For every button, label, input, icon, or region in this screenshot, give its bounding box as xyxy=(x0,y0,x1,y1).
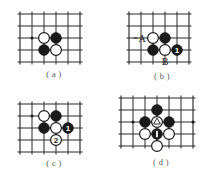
panel-c-caption: ( c ) xyxy=(14,158,94,168)
stone-number-1: 1 xyxy=(175,46,180,55)
stone-white xyxy=(140,129,151,140)
stone-black xyxy=(160,33,171,44)
go-diagram-figure: ( a ) AB1 ( b ) 12 ( c ) ( d ) xyxy=(0,0,212,175)
stone-black xyxy=(39,123,50,134)
stone-black xyxy=(152,105,163,116)
panel-d: ( d ) xyxy=(115,93,207,173)
star-point xyxy=(31,115,34,118)
stone-black xyxy=(148,45,159,56)
panel-b-caption: ( b ) xyxy=(119,71,205,81)
go-board-d xyxy=(115,93,207,155)
stone-black xyxy=(140,117,151,128)
go-board-b: AB1 xyxy=(119,9,205,69)
stone-white xyxy=(148,33,159,44)
panel-a: ( a ) xyxy=(14,9,94,87)
stone-white xyxy=(152,141,163,152)
star-point xyxy=(192,121,195,124)
star-point xyxy=(132,121,135,124)
stone-black xyxy=(39,45,50,56)
annotation-label-B: B xyxy=(162,56,169,67)
stone-black xyxy=(164,117,175,128)
star-point xyxy=(31,37,34,40)
annotation-label-A: A xyxy=(139,33,147,44)
stone-white xyxy=(51,45,62,56)
stone-number-1: 1 xyxy=(66,124,71,133)
panel-b: AB1 ( b ) xyxy=(119,9,205,87)
go-board-c: 12 xyxy=(14,96,94,156)
go-board-a xyxy=(14,9,94,67)
stone-white xyxy=(39,111,50,122)
stone-mark-bar xyxy=(156,131,158,138)
stone-black xyxy=(51,33,62,44)
stone-white xyxy=(160,45,171,56)
stone-white xyxy=(51,123,62,134)
panel-d-caption: ( d ) xyxy=(115,157,207,167)
stone-white xyxy=(39,33,50,44)
panel-a-caption: ( a ) xyxy=(14,69,94,79)
panel-c: 12 ( c ) xyxy=(14,96,94,174)
stone-white xyxy=(164,129,175,140)
stone-black xyxy=(51,111,62,122)
stone-number-2: 2 xyxy=(54,136,59,145)
